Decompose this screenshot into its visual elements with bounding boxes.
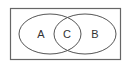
set-a-ellipse — [19, 14, 81, 54]
label-a: A — [37, 28, 45, 40]
label-c: C — [63, 28, 71, 40]
venn-diagram: A C B — [0, 0, 129, 64]
label-b: B — [91, 28, 98, 40]
